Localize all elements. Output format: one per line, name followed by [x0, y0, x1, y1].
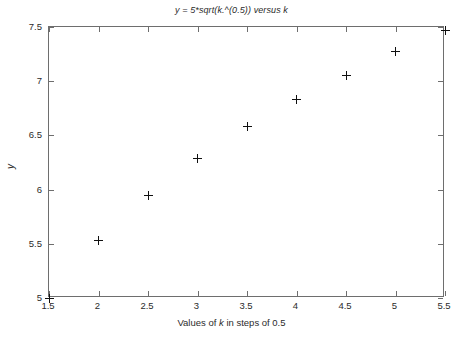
x-tick-label-5: 5 [392, 300, 397, 311]
chart-title: y = 5*sqrt(k.^(0.5)) versus k [0, 5, 463, 15]
x-tick-label-3.5: 3.5 [239, 300, 252, 311]
y-tick-label-5.5: 5.5 [42, 237, 55, 248]
y-tick-label-6.5: 6.5 [42, 129, 55, 140]
plot-inner [49, 27, 443, 296]
x-tick-top-2.5 [148, 27, 149, 32]
figure-canvas: y = 5*sqrt(k.^(0.5)) versus k 1.522.533.… [0, 0, 463, 339]
x-tick-3.5 [247, 291, 248, 296]
y-tick-label-text: 5.5 [29, 237, 42, 248]
x-axis-label: Values of k in steps of 0.5 [0, 317, 463, 328]
x-tick-label-2.5: 2.5 [140, 300, 153, 311]
data-point [94, 236, 103, 245]
x-tick-label-2: 2 [95, 300, 100, 311]
y-tick-label-text: 6 [37, 183, 42, 194]
data-point [243, 122, 252, 131]
x-tick-top-2 [99, 27, 100, 32]
x-tick-5.5 [445, 291, 446, 296]
y-tick-label-7.5: 7.5 [42, 21, 55, 32]
y-tick-label-text: 6.5 [29, 129, 42, 140]
y-tick-label-text: 7 [37, 75, 42, 86]
x-tick-top-5 [396, 27, 397, 32]
x-tick-label-4.5: 4.5 [338, 300, 351, 311]
x-tick-top-3.5 [247, 27, 248, 32]
data-point [193, 154, 202, 163]
x-tick-1.5 [49, 291, 50, 296]
y-tick-right-5.5 [438, 244, 443, 245]
y-axis-label: y [5, 164, 16, 169]
y-tick-right-7 [438, 81, 443, 82]
data-point [292, 95, 301, 104]
y-tick-6 [49, 190, 54, 191]
x-tick-label-4: 4 [293, 300, 298, 311]
x-axis-label-suffix: in steps of 0.5 [224, 317, 286, 328]
x-tick-top-4 [297, 27, 298, 32]
y-tick-label-7: 7 [42, 75, 47, 86]
x-tick-4.5 [346, 291, 347, 296]
y-tick-right-7.5 [438, 27, 443, 28]
x-tick-label-5.5: 5.5 [437, 300, 450, 311]
x-axis-label-prefix: Values of [177, 317, 219, 328]
y-tick-label-5: 5 [42, 292, 47, 303]
y-tick-right-6.5 [438, 135, 443, 136]
x-tick-top-4.5 [346, 27, 347, 32]
y-tick-7 [49, 81, 54, 82]
x-tick-2 [99, 291, 100, 296]
y-tick-label-text: 7.5 [29, 21, 42, 32]
y-tick-right-5 [438, 298, 443, 299]
x-tick-3 [198, 291, 199, 296]
x-tick-top-5.5 [445, 27, 446, 32]
y-tick-right-6 [438, 190, 443, 191]
plot-area[interactable] [48, 26, 444, 297]
x-tick-label-3: 3 [194, 300, 199, 311]
y-tick-label-text: 5 [37, 292, 42, 303]
x-tick-top-3 [198, 27, 199, 32]
x-tick-2.5 [148, 291, 149, 296]
y-tick-5 [49, 298, 54, 299]
data-point [391, 47, 400, 56]
data-point [342, 71, 351, 80]
y-tick-label-6: 6 [42, 183, 47, 194]
x-tick-5 [396, 291, 397, 296]
data-point [144, 191, 153, 200]
x-tick-4 [297, 291, 298, 296]
